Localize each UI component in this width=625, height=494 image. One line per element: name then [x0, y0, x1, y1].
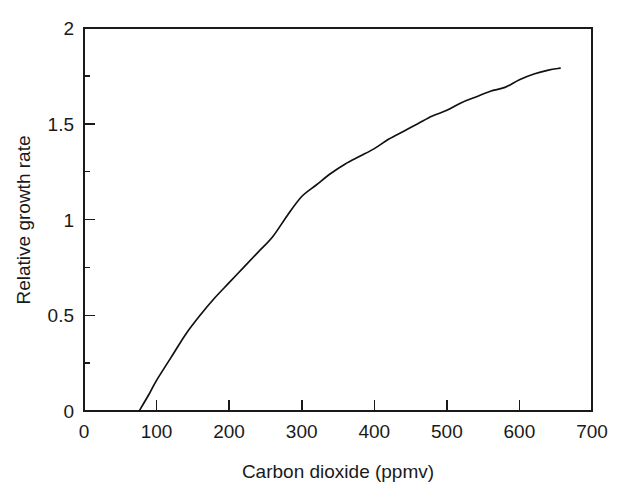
x-axis-tick-labels: 0 100 200 300 400 500 600 700 [79, 421, 608, 442]
y-tick-label-1-5: 1.5 [48, 114, 74, 135]
plot-frame [84, 28, 592, 411]
x-tick-label-400: 400 [358, 421, 390, 442]
y-tick-label-0-5: 0.5 [48, 305, 74, 326]
x-tick-label-100: 100 [141, 421, 173, 442]
x-tick-label-300: 300 [286, 421, 318, 442]
x-tick-label-700: 700 [576, 421, 608, 442]
x-tick-label-500: 500 [431, 421, 463, 442]
chart-figure: 0 100 200 300 400 500 600 700 0 0.5 1 1.… [0, 0, 625, 494]
y-tick-label-0: 0 [63, 401, 74, 422]
y-axis-title: Relative growth rate [13, 136, 34, 305]
x-tick-label-0: 0 [79, 421, 90, 442]
plot-box-outline [84, 28, 592, 411]
y-axis-ticks [84, 28, 95, 411]
x-axis-title: Carbon dioxide (ppmv) [242, 461, 434, 482]
growth-rate-curve [139, 68, 560, 411]
x-tick-label-200: 200 [213, 421, 245, 442]
x-tick-label-600: 600 [504, 421, 536, 442]
y-tick-label-1: 1 [63, 210, 74, 231]
y-axis-tick-labels: 0 0.5 1 1.5 2 [48, 18, 74, 422]
y-tick-label-2: 2 [63, 18, 74, 39]
growth-rate-line-chart: 0 100 200 300 400 500 600 700 0 0.5 1 1.… [0, 0, 625, 494]
x-axis-ticks [84, 400, 592, 411]
